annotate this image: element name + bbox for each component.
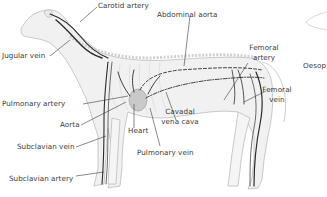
circulatory-diagram: Carotid artery Abdominal aorta Jugular v… [0, 0, 327, 197]
label-abdominal-aorta: Abdominal aorta [157, 11, 217, 19]
label-pulmonary-artery: Pulmonary artery [2, 100, 65, 108]
label-subclavian-vein: Subclavian vein [17, 143, 75, 151]
label-femoral-vein-line2: vein [262, 96, 292, 104]
label-heart: Heart [128, 127, 148, 135]
label-cavadal-line2: vena cava [160, 118, 200, 126]
label-femoral-artery-line2: artery [249, 54, 279, 62]
label-pulmonary-vein: Pulmonary vein [137, 149, 194, 157]
label-oesophagus-partial: Oesop [303, 62, 326, 70]
label-cavadal-line1: Cavadal [160, 108, 200, 116]
label-aorta: Aorta [60, 121, 80, 129]
partial-figure-outline [306, 12, 327, 30]
label-femoral-artery: Femoral artery [249, 44, 279, 62]
label-subclavian-artery: Subclavian artery [9, 175, 73, 183]
label-femoral-artery-line1: Femoral [249, 44, 279, 52]
label-femoral-vein-line1: Femoral [262, 86, 292, 94]
label-jugular-vein: Jugular vein [2, 52, 45, 60]
label-carotid-artery: Carotid artery [98, 2, 149, 10]
heart-shape [129, 89, 147, 111]
label-femoral-vein: Femoral vein [262, 86, 292, 104]
label-cavadal-vena-cava: Cavadal vena cava [160, 108, 200, 126]
